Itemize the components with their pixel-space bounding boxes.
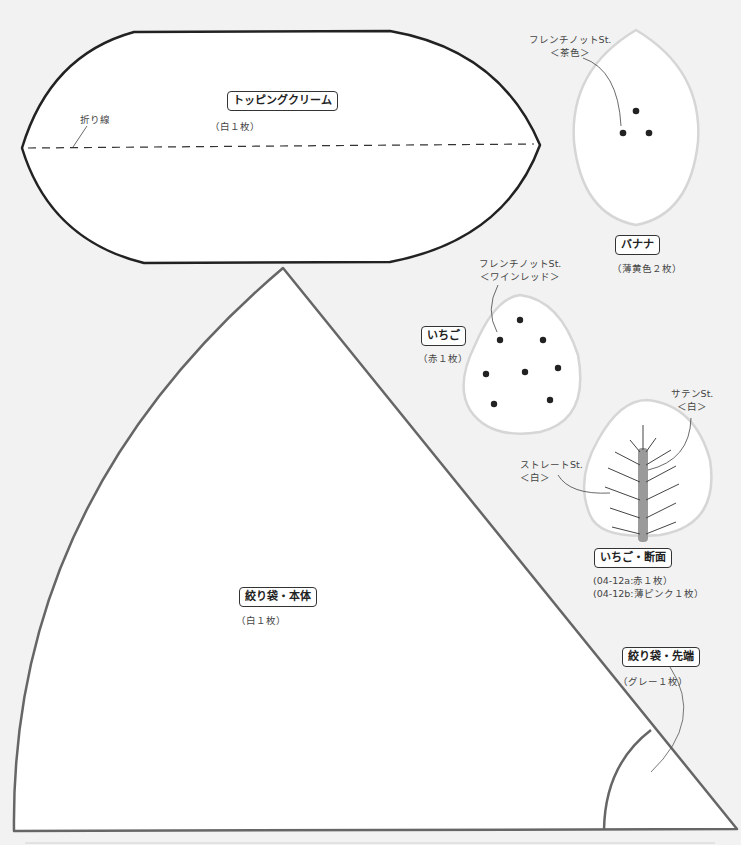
satin-stitch-label: サテンSt. ＜白＞ (662, 387, 722, 413)
straight-stitch-color: ＜白＞ (520, 471, 583, 484)
banana-title: バナナ (615, 235, 660, 255)
strawberry-stitch-label: フレンチノットSt. ＜ワインレッド＞ (470, 257, 570, 283)
strawberry-shape (464, 295, 581, 434)
fold-line-label: 折り線 (80, 113, 110, 126)
strawberry-seed (555, 365, 561, 371)
strawberry-title: いちご (421, 326, 466, 346)
banana-knot (646, 130, 653, 137)
topping-cream-count: （白１枚） (210, 120, 260, 133)
piping-bag-body-count: （白１枚） (236, 614, 286, 627)
piping-bag-body-title: 絞り袋・本体 (239, 587, 317, 607)
banana-count: （薄黄色２枚） (612, 262, 682, 275)
strawberry-seed (483, 371, 489, 377)
pattern-canvas (0, 0, 741, 845)
strawberry-seed (547, 397, 553, 403)
strawberry-seed (497, 337, 503, 343)
strawberry-seed (517, 317, 523, 323)
strawberry-seed (522, 369, 528, 375)
satin-stitch-bar (638, 448, 648, 542)
strawberry-count: （赤１枚） (418, 352, 468, 365)
piping-bag-tip-title: 絞り袋・先端 (622, 647, 700, 667)
strawberry-seed (540, 337, 546, 343)
strawberry-stitch-color: ＜ワインレッド＞ (470, 270, 570, 283)
banana-shape (574, 30, 699, 225)
straight-stitch-label: ストレートSt. ＜白＞ (520, 458, 583, 484)
banana-knot (633, 108, 640, 115)
strawberry-seed (491, 401, 497, 407)
banana-stitch-name: フレンチノットSt. (520, 33, 620, 46)
strawberry-section-title: いちご・断面 (594, 548, 672, 568)
banana-stitch-label: フレンチノットSt. ＜茶色＞ (520, 33, 620, 59)
straight-stitch-name: ストレートSt. (520, 458, 583, 471)
strawberry-section-count-b: (04-12b:薄ピンク１枚） (593, 587, 704, 600)
satin-stitch-color: ＜白＞ (662, 400, 722, 413)
strawberry-stitch-name: フレンチノットSt. (470, 257, 570, 270)
piping-bag-tip-count: （グレー１枚） (618, 675, 688, 688)
banana-knot (620, 130, 627, 137)
strawberry-section-count-a: (04-12a:赤１枚） (593, 574, 673, 587)
satin-stitch-name: サテンSt. (662, 387, 722, 400)
banana-stitch-color: ＜茶色＞ (520, 46, 620, 59)
topping-cream-title: トッピングクリーム (227, 91, 338, 111)
